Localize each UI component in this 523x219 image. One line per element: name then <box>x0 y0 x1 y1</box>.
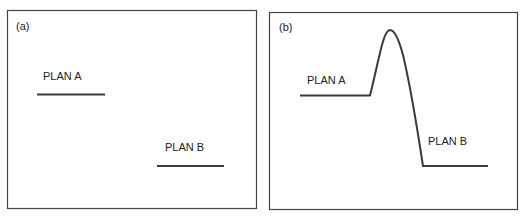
panel-a-plan-a-label: PLAN A <box>43 70 82 82</box>
panel-b-frame <box>270 13 518 210</box>
panel-a-plan-b-label: PLAN B <box>165 141 204 153</box>
diagram-canvas: (a) PLAN A PLAN B (b) PLAN A PLAN B <box>0 0 523 219</box>
panel-b-plan-a-label: PLAN A <box>307 74 346 86</box>
panel-a-frame <box>8 11 257 209</box>
panel-b-label: (b) <box>279 21 292 33</box>
panel-b-plan-b-label: PLAN B <box>428 135 467 147</box>
panel-a: (a) PLAN A PLAN B <box>8 11 257 209</box>
panel-b: (b) PLAN A PLAN B <box>270 13 518 210</box>
panel-a-label: (a) <box>16 20 29 32</box>
